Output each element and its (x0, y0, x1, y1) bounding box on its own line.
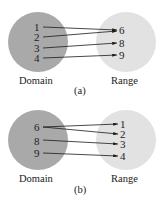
range-circle (96, 12, 156, 72)
range-value: 4 (120, 150, 126, 162)
range-value: 3 (120, 138, 126, 150)
domain-label: Domain (19, 75, 54, 86)
domain-value: 8 (34, 135, 40, 147)
caption: (b) (74, 184, 87, 196)
caption: (a) (74, 85, 86, 97)
diagram-a: 1 2 3 4 6 8 9 Domain Range (a) (8, 12, 156, 97)
range-value: 6 (119, 24, 125, 36)
domain-label: Domain (19, 173, 54, 184)
domain-value: 9 (34, 147, 40, 159)
domain-value: 4 (34, 52, 40, 64)
range-circle (96, 110, 156, 170)
range-label: Range (111, 75, 138, 86)
mapping-diagrams: 1 2 3 4 6 8 9 Domain Range (a) 6 8 9 1 2… (0, 0, 162, 198)
range-value: 8 (119, 37, 125, 49)
diagram-b: 6 8 9 1 2 3 4 Domain Range (b) (8, 110, 156, 196)
range-value: 9 (119, 49, 125, 61)
domain-value: 6 (34, 121, 40, 133)
range-label: Range (111, 173, 138, 184)
